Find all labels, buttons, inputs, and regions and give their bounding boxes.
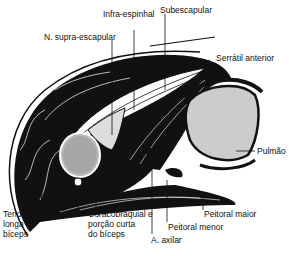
label-n-supra-escapular: N. supra-escapular	[44, 33, 116, 43]
label-serratil-anterior: Serrátil anterior	[216, 54, 274, 64]
label-pulmao: Pulmão	[257, 147, 286, 157]
label-a-axilar: A. axilar	[151, 236, 182, 246]
biceps-tendon	[74, 178, 82, 186]
label-coraco-line3: do bíceps	[88, 230, 125, 240]
label-peitoral-maior: Peitoral maior	[204, 210, 256, 220]
pectoralis-minor	[165, 168, 183, 177]
label-infra-espinhal: Infra-espinhal	[103, 10, 155, 20]
label-peitoral-menor: Peitoral menor	[168, 223, 223, 233]
label-subescapular: Subescapular	[160, 6, 212, 16]
lung	[186, 86, 259, 160]
label-tendao-line3: bíceps	[3, 230, 28, 240]
back-surface-line	[150, 37, 215, 46]
label-deltoide: Deltóide	[19, 192, 50, 202]
axillary-artery	[146, 148, 154, 156]
